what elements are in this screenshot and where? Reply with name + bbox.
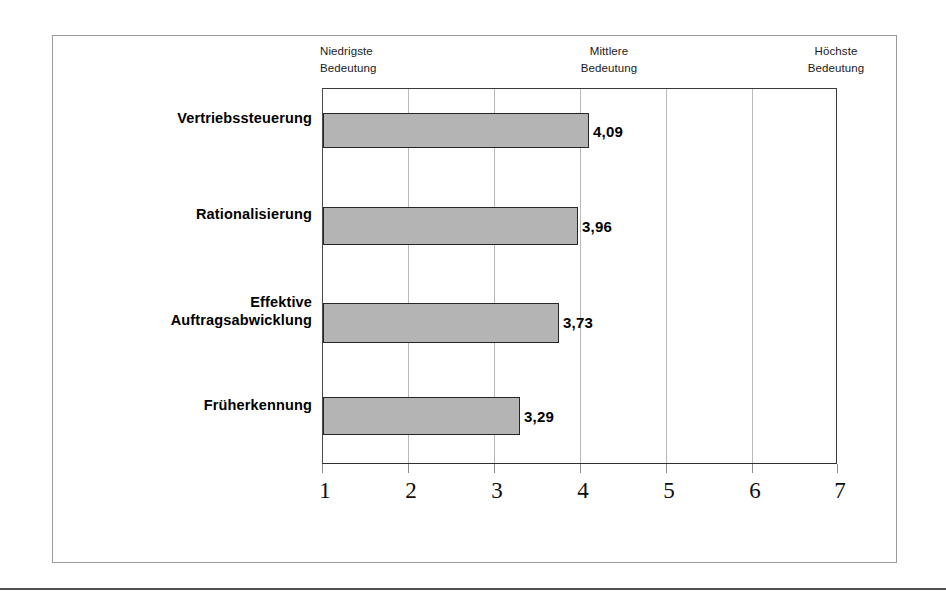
gridline-6 [752, 89, 753, 463]
value-label-vertriebssteuerung: 4,09 [593, 123, 623, 140]
value-label-frueherkennung: 3,29 [524, 408, 554, 425]
category-label-line: Vertriebssteuerung [177, 110, 312, 126]
scale-caption-lowest: Niedrigste Bedeutung [320, 43, 377, 77]
xtick-label-4: 4 [563, 478, 603, 504]
scale-caption-middle-line1: Mittlere [590, 45, 629, 57]
gridline-5 [666, 89, 667, 463]
xtick-mark-3 [494, 464, 495, 473]
scale-caption-highest: Höchste Bedeutung [783, 43, 889, 77]
xtick-label-6: 6 [735, 478, 775, 504]
category-label-effektive-auftragsabwicklung: Effektive Auftragsabwicklung [62, 293, 312, 329]
category-label-vertriebssteuerung: Vertriebssteuerung [62, 109, 312, 127]
xtick-mark-4 [580, 464, 581, 473]
scale-caption-highest-line1: Höchste [815, 45, 858, 57]
xtick-label-3: 3 [477, 478, 517, 504]
category-label-rationalisierung: Rationalisierung [62, 205, 312, 223]
xtick-label-5: 5 [649, 478, 689, 504]
category-label-line: Früherkennung [204, 397, 312, 413]
xtick-mark-2 [408, 464, 409, 473]
bar-frueherkennung [323, 397, 520, 435]
category-label-line: Auftragsabwicklung [62, 311, 312, 329]
chart-figure: Niedrigste Bedeutung Mittlere Bedeutung … [0, 0, 946, 595]
xtick-mark-5 [666, 464, 667, 473]
category-label-line: Effektive [62, 293, 312, 311]
xtick-mark-1 [322, 464, 323, 473]
scale-caption-lowest-line1: Niedrigste [320, 45, 373, 57]
page-bottom-rule [0, 588, 946, 590]
scale-caption-middle: Mittlere Bedeutung [556, 43, 662, 77]
xtick-mark-6 [752, 464, 753, 473]
xtick-label-2: 2 [391, 478, 431, 504]
category-axis-labels: Vertriebssteuerung Rationalisierung Effe… [62, 88, 312, 464]
bar-effektive-auftragsabwicklung [323, 303, 559, 343]
category-label-line: Rationalisierung [196, 206, 312, 222]
plot-area [322, 88, 837, 464]
scale-caption-highest-line2: Bedeutung [783, 60, 889, 77]
category-label-frueherkennung: Früherkennung [62, 396, 312, 414]
bar-rationalisierung [323, 207, 578, 245]
value-label-effektive-auftragsabwicklung: 3,73 [563, 314, 593, 331]
scale-caption-lowest-line2: Bedeutung [320, 60, 377, 77]
bar-vertriebssteuerung [323, 113, 589, 148]
xtick-mark-7 [837, 464, 838, 473]
xtick-label-1: 1 [305, 478, 345, 504]
xtick-label-7: 7 [820, 478, 860, 504]
scale-caption-middle-line2: Bedeutung [556, 60, 662, 77]
value-label-rationalisierung: 3,96 [582, 218, 612, 235]
